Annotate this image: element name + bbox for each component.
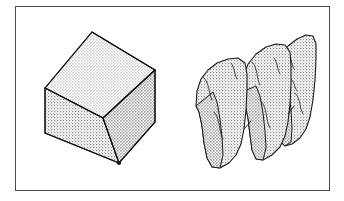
illustration-canvas xyxy=(0,0,344,201)
cube-bottom-vertex-marker xyxy=(117,161,121,165)
fractured-block xyxy=(196,35,316,168)
solid-cube xyxy=(45,32,155,165)
figure-container: Solid block and the same block fractured… xyxy=(0,0,344,201)
slab-front-left xyxy=(196,58,247,168)
